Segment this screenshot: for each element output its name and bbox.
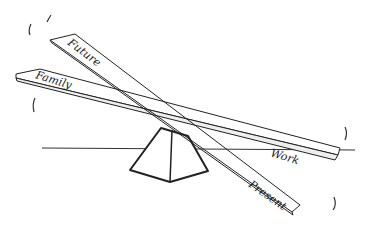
sketch-canvas: Future Family Work Present: [0, 0, 371, 230]
fulcrum-pyramid: [130, 128, 208, 182]
seesaw-sketch: Future Family Work Present: [0, 0, 371, 230]
label-present: Present: [245, 177, 289, 213]
